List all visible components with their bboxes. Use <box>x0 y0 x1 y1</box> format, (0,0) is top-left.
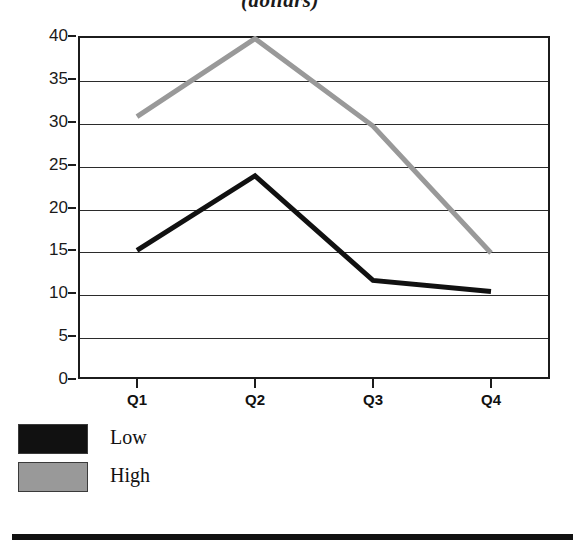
x-axis: Q1Q2Q3Q4 <box>78 379 550 415</box>
y-axis-tick-label: 25 <box>8 156 68 173</box>
chart-title: (dollars) <box>0 0 560 13</box>
legend-label-low: Low <box>110 426 147 449</box>
y-axis-tick <box>68 335 76 337</box>
y-axis-tick <box>68 378 76 380</box>
y-axis-tick <box>68 78 76 80</box>
y-axis-tick-label: 40 <box>8 27 68 44</box>
y-axis-tick-label: 30 <box>8 113 68 130</box>
gridline <box>80 295 548 296</box>
y-axis-tick-label: 10 <box>8 284 68 301</box>
x-axis-tick-label: Q2 <box>225 391 285 408</box>
y-axis-tick-label: 20 <box>8 199 68 216</box>
y-axis-tick-label: 5 <box>8 327 68 344</box>
x-axis-tick <box>490 379 492 388</box>
legend-swatch-low <box>18 424 88 454</box>
gridline <box>80 210 548 211</box>
gridline <box>80 124 548 125</box>
y-axis: 0510152025303540 <box>0 36 68 379</box>
gridline <box>80 338 548 339</box>
y-axis-tick <box>68 164 76 166</box>
gridline <box>80 81 548 82</box>
x-axis-tick-label: Q1 <box>107 391 167 408</box>
x-axis-tick-label: Q4 <box>461 391 521 408</box>
y-axis-tick <box>68 292 76 294</box>
x-axis-tick <box>254 379 256 388</box>
y-axis-tick-label: 35 <box>8 70 68 87</box>
x-axis-tick <box>372 379 374 388</box>
plot-area <box>78 36 550 379</box>
legend-swatch-high <box>18 462 88 492</box>
y-axis-tick <box>68 121 76 123</box>
gridline <box>80 252 548 253</box>
gridline <box>80 167 548 168</box>
y-axis-tick-label: 0 <box>8 370 68 387</box>
legend-item-low: Low <box>18 422 278 460</box>
bottom-divider-rule <box>12 534 573 540</box>
y-axis-tick <box>68 35 76 37</box>
y-axis-tick <box>68 207 76 209</box>
y-axis-tick <box>68 249 76 251</box>
x-axis-tick-label: Q3 <box>343 391 403 408</box>
x-axis-tick <box>136 379 138 388</box>
legend-label-high: High <box>110 464 150 487</box>
y-axis-tick-label: 15 <box>8 241 68 258</box>
legend-item-high: High <box>18 460 278 498</box>
chart-legend: Low High <box>18 422 278 498</box>
